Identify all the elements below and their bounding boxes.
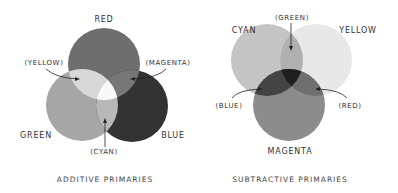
label-green: GREEN: [20, 131, 52, 140]
subtractive-title: SUBTRACTIVE PRIMARIES: [232, 175, 348, 184]
label-magenta: MAGENTA: [268, 147, 313, 156]
color-primaries-figure: RED GREEN BLUE (YELLOW) (MAGENTA) (CYAN)…: [0, 0, 398, 193]
label-red-overlap: (RED): [338, 102, 361, 110]
label-blue: BLUE: [161, 131, 185, 140]
label-yellow: YELLOW: [338, 26, 377, 35]
label-green-overlap: (GREEN): [275, 14, 309, 22]
label-blue-overlap: (BLUE): [216, 102, 243, 110]
additive-title: ADDITIVE PRIMARIES: [57, 175, 153, 184]
label-magenta-overlap: (MAGENTA): [145, 59, 190, 67]
subtractive-diagram: CYAN YELLOW MAGENTA (GREEN) (BLUE) (RED)…: [216, 14, 377, 184]
label-cyan: CYAN: [232, 26, 256, 35]
label-yellow-overlap: (YELLOW): [25, 59, 64, 67]
label-cyan-overlap: (CYAN): [90, 148, 118, 156]
label-red: RED: [94, 15, 113, 24]
additive-diagram: RED GREEN BLUE (YELLOW) (MAGENTA) (CYAN)…: [20, 15, 191, 184]
